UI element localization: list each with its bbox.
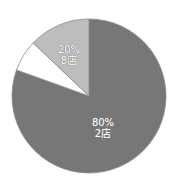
slice-label-light: 20% 8店 xyxy=(58,44,80,66)
pie-chart-svg xyxy=(0,0,178,191)
slice-percent-dark: 80% xyxy=(92,117,114,128)
slice-label-dark: 80% 2店 xyxy=(92,117,114,139)
slice-count-light: 8店 xyxy=(58,55,80,66)
slice-count-dark: 2店 xyxy=(92,128,114,139)
slice-percent-light: 20% xyxy=(58,44,80,55)
